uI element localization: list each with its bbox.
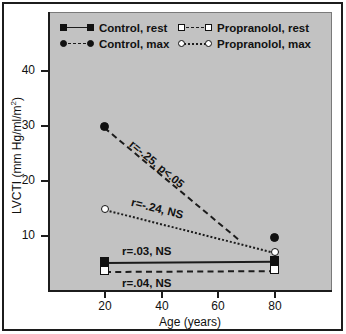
y-tick-30 — [41, 125, 48, 127]
filled-square-marker-icon — [60, 24, 67, 31]
legend-sample-propranolol-rest — [178, 22, 212, 34]
legend-sample-propranolol-max — [178, 38, 212, 50]
legend-sample-control-rest — [60, 22, 94, 34]
data-point-propranolol-rest-80 — [270, 265, 279, 274]
data-point-control-max-20 — [100, 122, 109, 131]
y-tick-10 — [41, 235, 48, 237]
plot-area — [48, 12, 332, 290]
legend-label-control-rest: Control, rest — [99, 22, 167, 34]
legend-row: Control, max Propranolol, max — [60, 36, 325, 52]
legend: Control, rest Propranolol, rest Control,… — [60, 20, 325, 52]
legend-item-propranolol-rest: Propranolol, rest — [178, 22, 325, 34]
y-tick-20 — [41, 180, 48, 182]
x-tick-label-20: 20 — [85, 300, 125, 312]
x-tick-20 — [104, 292, 106, 298]
legend-item-control-rest: Control, rest — [60, 22, 178, 34]
legend-label-control-max: Control, max — [99, 38, 169, 50]
legend-label-propranolol-max: Propranolol, max — [217, 38, 311, 50]
legend-label-propranolol-rest: Propranolol, rest — [217, 22, 309, 34]
open-square-marker-icon — [205, 24, 212, 31]
data-point-propranolol-rest-20 — [100, 266, 109, 275]
legend-sample-control-max — [60, 38, 94, 50]
filled-square-marker-icon — [87, 24, 94, 31]
y-axis-title-end: ) — [10, 97, 24, 101]
open-square-marker-icon — [178, 24, 185, 31]
plot-border-top — [48, 12, 332, 13]
annotation-propranolol-rest: r=.04, NS — [122, 277, 172, 289]
x-tick-40 — [161, 292, 163, 298]
x-tick-80 — [274, 292, 276, 298]
data-point-propranolol-max-80 — [271, 248, 279, 256]
data-point-propranolol-max-20 — [101, 205, 109, 213]
open-circle-marker-icon — [178, 40, 185, 47]
x-axis-line — [48, 290, 332, 292]
x-axis-title: Age (years) — [48, 315, 332, 329]
legend-row: Control, rest Propranolol, rest — [60, 20, 325, 36]
data-point-control-rest-20 — [100, 257, 109, 266]
y-axis-title-superscript: 2 — [9, 101, 18, 105]
x-tick-label-60: 60 — [198, 300, 238, 312]
y-tick-40 — [41, 70, 48, 72]
y-axis-title-main: LVCTI (mm Hg/ml/m — [10, 106, 24, 214]
x-tick-60 — [217, 292, 219, 298]
plot-border-right — [331, 12, 332, 292]
x-tick-label-40: 40 — [142, 300, 182, 312]
x-tick-label-80: 80 — [255, 300, 295, 312]
y-axis-line — [48, 12, 50, 292]
annotation-control-rest: r=.03, NS — [122, 245, 172, 257]
legend-item-control-max: Control, max — [60, 38, 178, 50]
open-circle-marker-icon — [205, 40, 212, 47]
data-point-control-max-80 — [270, 233, 279, 242]
legend-item-propranolol-max: Propranolol, max — [178, 38, 325, 50]
filled-circle-marker-icon — [60, 40, 67, 47]
filled-circle-marker-icon — [87, 40, 94, 47]
y-axis-title: LVCTI (mm Hg/ml/m2) — [9, 56, 24, 256]
figure-root: 40 30 20 10 20 40 60 80 Age (years) LVCT… — [0, 0, 346, 334]
data-point-control-rest-80 — [270, 256, 279, 265]
